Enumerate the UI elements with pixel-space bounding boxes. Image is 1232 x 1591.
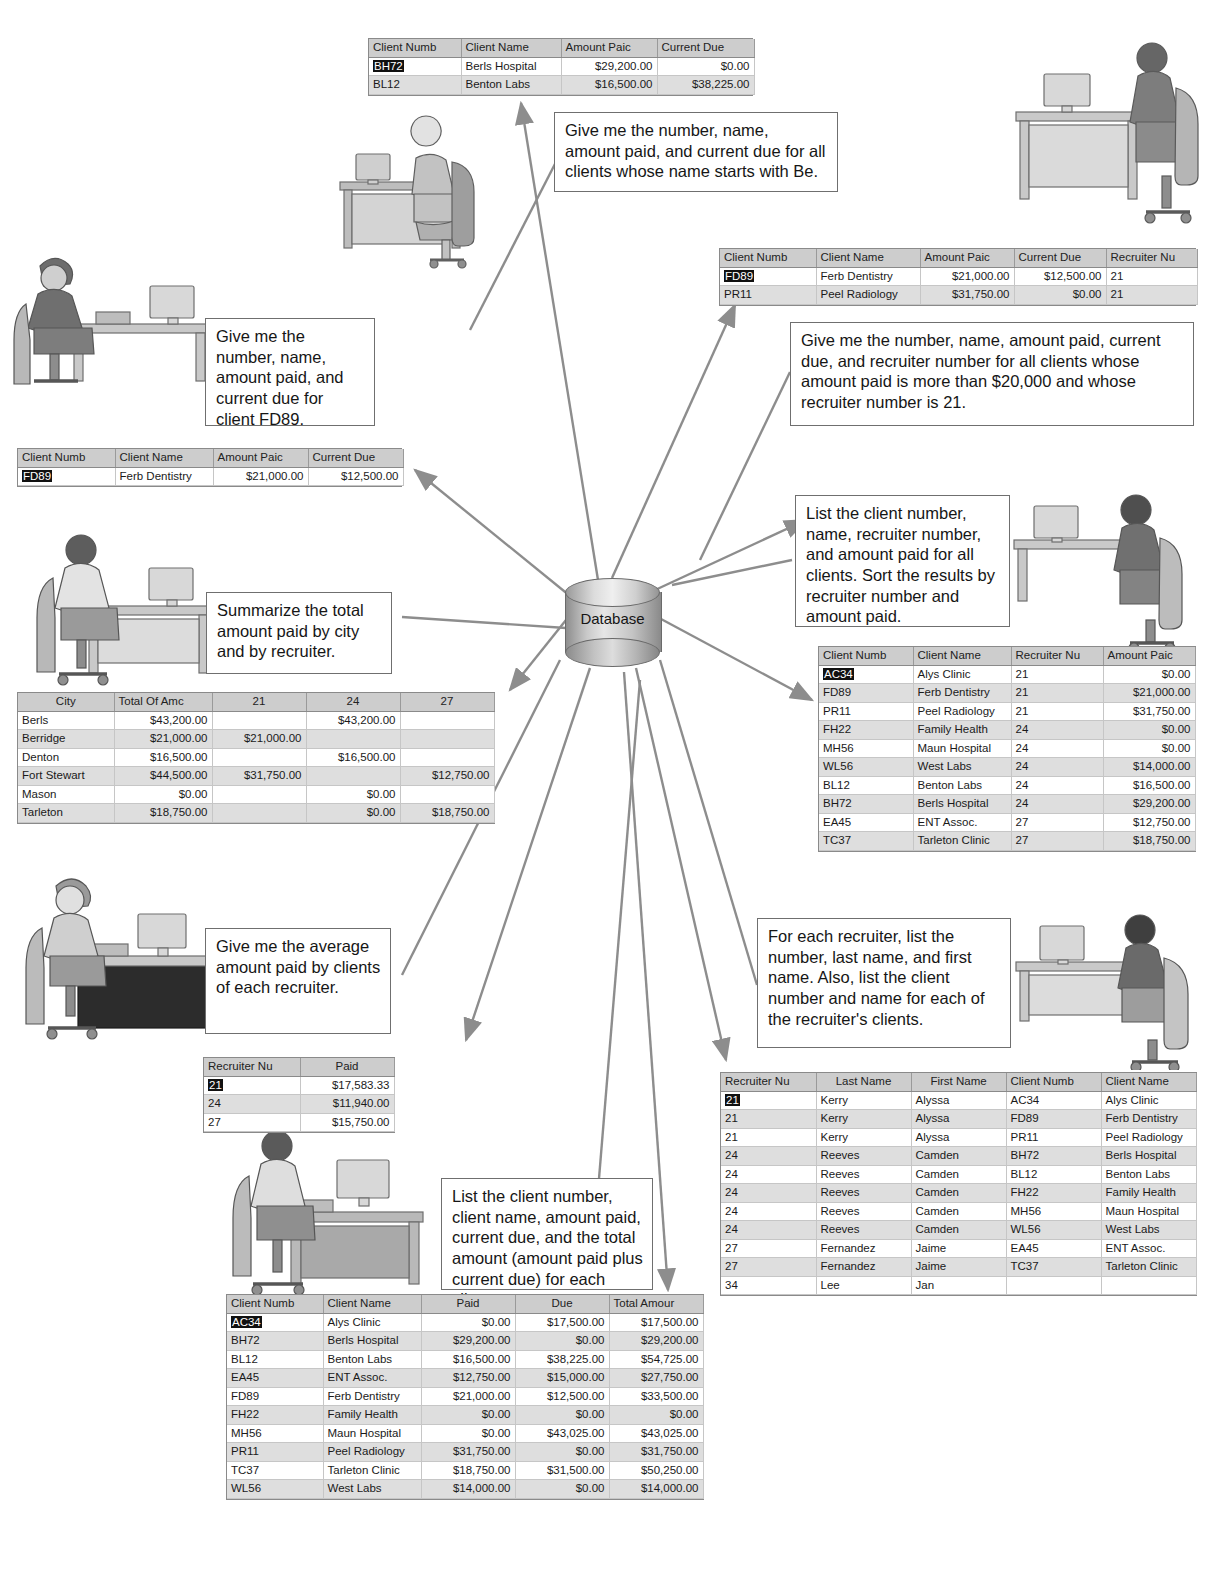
table-row[interactable]: FD89 Ferb Dentistry $21,000.00 $12,500.0… — [227, 1387, 703, 1406]
column-header[interactable]: Current Due — [308, 449, 403, 467]
cell[interactable]: Benton Labs — [913, 776, 1011, 795]
column-header[interactable]: Client Name — [816, 249, 920, 267]
grid-recruiter-clients[interactable]: Recruiter Nu Last Name First Name Client… — [720, 1072, 1197, 1296]
table-row[interactable]: WL56 West Labs 24 $14,000.00 — [819, 758, 1195, 777]
cell[interactable]: TC37 — [227, 1461, 323, 1480]
table-row[interactable]: EA45 ENT Assoc. $12,750.00 $15,000.00 $2… — [227, 1369, 703, 1388]
cell[interactable]: Reeves — [816, 1165, 911, 1184]
column-header[interactable]: Due — [515, 1295, 609, 1313]
table-row[interactable]: Berls $43,200.00 $43,200.00 — [18, 711, 494, 730]
cell[interactable]: Ferb Dentistry — [816, 267, 920, 286]
cell[interactable]: 21 — [1011, 665, 1103, 684]
cell[interactable]: BL12 — [1006, 1165, 1101, 1184]
cell[interactable]: $0.00 — [1103, 665, 1195, 684]
table-row[interactable]: 21 Kerry Alyssa AC34 Alys Clinic — [721, 1091, 1196, 1110]
cell[interactable]: 24 — [1011, 739, 1103, 758]
column-header[interactable]: Client Name — [1101, 1073, 1196, 1091]
column-header[interactable]: Client Numb — [1006, 1073, 1101, 1091]
cell[interactable]: $54,725.00 — [609, 1350, 703, 1369]
cell[interactable]: $0.00 — [515, 1406, 609, 1425]
cell[interactable]: 27 — [1011, 813, 1103, 832]
cell[interactable]: $16,500.00 — [1103, 776, 1195, 795]
cell-selected[interactable]: FD89 — [720, 267, 816, 286]
cell[interactable] — [306, 730, 400, 749]
cell[interactable]: Tarleton — [18, 804, 114, 823]
table-row[interactable]: BH72 Berls Hospital $29,200.00 $0.00 — [369, 57, 754, 76]
cell[interactable]: PR11 — [227, 1443, 323, 1462]
cell[interactable]: Ferb Dentistry — [115, 467, 213, 486]
cell[interactable]: Family Health — [323, 1406, 421, 1425]
column-header[interactable]: Recruiter Nu — [721, 1073, 816, 1091]
grid-total-amount[interactable]: Client Numb Client Name Paid Due Total A… — [226, 1294, 704, 1500]
cell[interactable]: Berls — [18, 711, 114, 730]
cell[interactable]: 24 — [721, 1184, 816, 1203]
cell[interactable]: Camden — [911, 1221, 1006, 1240]
column-header[interactable]: Client Numb — [720, 249, 816, 267]
cell[interactable] — [212, 748, 306, 767]
column-header[interactable]: 21 — [212, 693, 306, 711]
cell[interactable]: $43,200.00 — [306, 711, 400, 730]
cell[interactable]: Benton Labs — [323, 1350, 421, 1369]
cell[interactable]: $0.00 — [1103, 721, 1195, 740]
table-row[interactable]: TC37 Tarleton Clinic 27 $18,750.00 — [819, 832, 1195, 851]
cell[interactable]: $31,750.00 — [212, 767, 306, 786]
cell[interactable]: Alys Clinic — [323, 1313, 421, 1332]
cell[interactable]: WL56 — [1006, 1221, 1101, 1240]
cell[interactable]: 21 — [1106, 267, 1197, 286]
cell[interactable] — [1006, 1276, 1101, 1295]
table-row[interactable]: 21 Kerry Alyssa PR11 Peel Radiology — [721, 1128, 1196, 1147]
cell[interactable]: Alys Clinic — [1101, 1091, 1196, 1110]
datasheet[interactable]: Recruiter Nu Last Name First Name Client… — [721, 1073, 1197, 1295]
column-header[interactable]: Recruiter Nu — [1106, 249, 1197, 267]
cell[interactable]: Family Health — [913, 721, 1011, 740]
cell[interactable]: Benton Labs — [461, 76, 561, 95]
cell[interactable]: Reeves — [816, 1202, 911, 1221]
cell[interactable]: Alys Clinic — [913, 665, 1011, 684]
table-row[interactable]: Denton $16,500.00 $16,500.00 — [18, 748, 494, 767]
cell[interactable]: 27 — [204, 1113, 300, 1132]
cell[interactable]: Camden — [911, 1202, 1006, 1221]
table-row[interactable]: FH22 Family Health $0.00 $0.00 $0.00 — [227, 1406, 703, 1425]
cell[interactable]: $12,500.00 — [308, 467, 403, 486]
cell[interactable] — [306, 767, 400, 786]
cell[interactable]: Ferb Dentistry — [913, 684, 1011, 703]
column-header[interactable]: Amount Paic — [561, 39, 657, 57]
table-row[interactable]: Tarleton $18,750.00 $0.00 $18,750.00 — [18, 804, 494, 823]
column-header[interactable]: Client Numb — [18, 449, 115, 467]
cell[interactable]: $18,750.00 — [114, 804, 212, 823]
cell[interactable]: West Labs — [913, 758, 1011, 777]
table-row[interactable]: BH72 Berls Hospital 24 $29,200.00 — [819, 795, 1195, 814]
cell[interactable]: 21 — [721, 1128, 816, 1147]
column-header[interactable]: Recruiter Nu — [204, 1058, 300, 1076]
table-row[interactable]: 27 $15,750.00 — [204, 1113, 394, 1132]
cell[interactable]: $0.00 — [421, 1313, 515, 1332]
datasheet[interactable]: City Total Of Amc 21 24 27 Berls $43,200… — [18, 693, 495, 823]
cell[interactable]: $12,500.00 — [1014, 267, 1106, 286]
cell[interactable]: Reeves — [816, 1221, 911, 1240]
cell[interactable]: $31,750.00 — [609, 1443, 703, 1462]
cell[interactable]: Maun Hospital — [323, 1424, 421, 1443]
cell[interactable]: $29,200.00 — [561, 57, 657, 76]
table-row[interactable]: 27 Fernandez Jaime TC37 Tarleton Clinic — [721, 1258, 1196, 1277]
cell[interactable]: West Labs — [1101, 1221, 1196, 1240]
column-header[interactable]: Paid — [300, 1058, 394, 1076]
cell[interactable]: Peel Radiology — [816, 286, 920, 305]
cell[interactable]: $0.00 — [1103, 739, 1195, 758]
cell[interactable]: ENT Assoc. — [323, 1369, 421, 1388]
cell[interactable]: $29,200.00 — [609, 1332, 703, 1351]
column-header[interactable]: Client Numb — [369, 39, 461, 57]
column-header[interactable]: Client Name — [323, 1295, 421, 1313]
cell[interactable]: Kerry — [816, 1128, 911, 1147]
cell[interactable] — [400, 711, 494, 730]
cell[interactable]: FD89 — [1006, 1110, 1101, 1129]
cell[interactable]: $0.00 — [609, 1406, 703, 1425]
cell[interactable]: $43,025.00 — [609, 1424, 703, 1443]
table-row[interactable]: EA45 ENT Assoc. 27 $12,750.00 — [819, 813, 1195, 832]
cell[interactable]: $16,500.00 — [306, 748, 400, 767]
cell[interactable]: FH22 — [1006, 1184, 1101, 1203]
table-row[interactable]: FD89 Ferb Dentistry $21,000.00 $12,500.0… — [18, 467, 403, 486]
cell[interactable]: $21,000.00 — [421, 1387, 515, 1406]
cell[interactable]: Kerry — [816, 1091, 911, 1110]
column-header[interactable]: Amount Paic — [920, 249, 1014, 267]
cell[interactable]: Tarleton Clinic — [913, 832, 1011, 851]
